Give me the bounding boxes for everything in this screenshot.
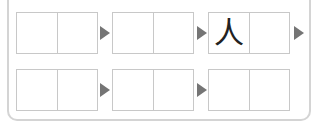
word-box-row2-2 bbox=[112, 69, 194, 111]
word-box-row1-1 bbox=[16, 12, 98, 54]
char-cell[interactable] bbox=[249, 70, 290, 110]
arrow-right-icon bbox=[100, 26, 110, 40]
arrow-right-icon bbox=[197, 83, 207, 97]
char-cell[interactable] bbox=[57, 70, 98, 110]
word-box-row1-2 bbox=[112, 12, 194, 54]
char-cell[interactable] bbox=[57, 13, 98, 53]
arrow-right-icon bbox=[100, 83, 110, 97]
char-cell[interactable] bbox=[153, 70, 194, 110]
arrow-right-icon bbox=[197, 26, 207, 40]
char-cell[interactable]: 人 bbox=[209, 13, 249, 53]
word-box-row2-3 bbox=[208, 69, 290, 111]
char-cell[interactable] bbox=[113, 13, 153, 53]
char-cell[interactable] bbox=[17, 70, 57, 110]
word-box-row1-3: 人 bbox=[208, 12, 290, 54]
char-cell[interactable] bbox=[153, 13, 194, 53]
char-cell[interactable] bbox=[17, 13, 57, 53]
char-cell[interactable] bbox=[209, 70, 249, 110]
char-cell[interactable] bbox=[249, 13, 290, 53]
word-box-row2-1 bbox=[16, 69, 98, 111]
char-cell[interactable] bbox=[113, 70, 153, 110]
arrow-right-icon bbox=[294, 26, 304, 40]
